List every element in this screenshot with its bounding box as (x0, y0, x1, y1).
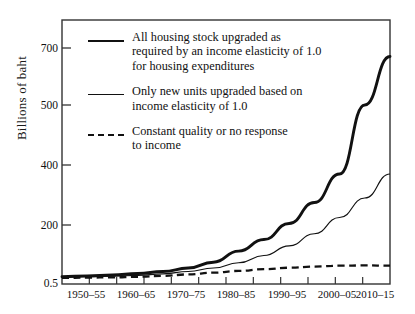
x-axis-tick-marks (89, 277, 362, 284)
chart-figure: Billions of baht 7005004002000.5 1950–55… (0, 0, 415, 314)
legend-label: All housing stock upgraded asrequired by… (132, 30, 322, 73)
legend-label: Constant quality or no responseto income (132, 124, 288, 153)
legend-label-line: to income (132, 138, 288, 152)
legend-line-swatch (88, 127, 124, 141)
x-tick-label: 1950–55 (67, 288, 106, 300)
x-tick-label: 1960–65 (117, 288, 156, 300)
series-line-new-units (62, 174, 390, 277)
legend-label: Only new units upgraded based onincome e… (132, 84, 302, 113)
y-axis-tick-labels: 7005004002000.5 (20, 0, 58, 314)
x-tick-label: 2000–05 (318, 288, 357, 300)
x-tick-label: 1990–95 (268, 288, 307, 300)
y-tick-label: 500 (24, 99, 58, 111)
legend-entry: Only new units upgraded based onincome e… (88, 84, 348, 113)
x-tick-label: 1980–85 (217, 288, 256, 300)
legend-label-line: required by an income elasticity of 1.0 (132, 44, 322, 58)
legend-line-swatch (88, 33, 124, 47)
legend-label-line: income elasticity of 1.0 (132, 99, 302, 113)
legend-label-line: All housing stock upgraded as (132, 30, 322, 44)
x-axis-tick-labels: 1950–551960–651970–751980–851990–952000–… (0, 288, 415, 310)
legend-entry: Constant quality or no responseto income (88, 124, 348, 153)
x-tick-label: 1970–75 (167, 288, 206, 300)
y-axis-tick-marks (62, 48, 71, 225)
y-tick-label: 700 (24, 42, 58, 54)
legend-label-line: Constant quality or no response (132, 124, 288, 138)
chart-legend: All housing stock upgraded asrequired by… (88, 30, 348, 164)
legend-label-line: Only new units upgraded based on (132, 84, 302, 98)
legend-entry: All housing stock upgraded asrequired by… (88, 30, 348, 73)
y-tick-label: 400 (24, 159, 58, 171)
y-tick-label: 200 (24, 219, 58, 231)
x-tick-label: 2010–15 (356, 288, 395, 300)
legend-line-swatch (88, 87, 124, 101)
legend-label-line: for housing expenditures (132, 59, 322, 73)
